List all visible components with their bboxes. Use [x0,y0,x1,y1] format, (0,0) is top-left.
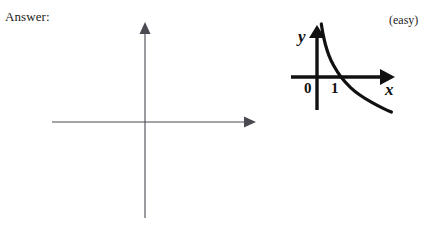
answer-graph-curve [321,24,391,112]
answer-graph-tick-label-1: 1 [331,80,339,96]
blank-axes-x-axis [52,117,256,128]
answer-graph-y-axis-label: y [296,27,306,46]
blank-answer-axes[interactable] [40,18,265,226]
answer-graph-origin-label: 0 [304,80,312,96]
answer-page: Answer: (easy) y [0,0,443,235]
answer-graph-x-axis-label: x [384,80,394,99]
answer-graph: y x 0 1 [283,22,403,127]
blank-axes-y-axis [140,22,151,218]
